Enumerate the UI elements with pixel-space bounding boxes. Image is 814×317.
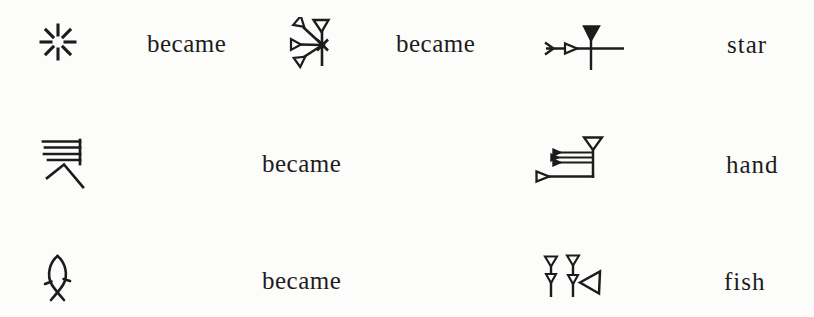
pictograph-to-cuneiform-figure: became became star bbox=[0, 0, 814, 317]
row1-connector-2: became bbox=[396, 31, 475, 56]
hand-pictograph-icon bbox=[40, 136, 86, 190]
fish-pictograph-icon bbox=[42, 252, 74, 306]
star-burst-pictograph-icon bbox=[38, 22, 80, 64]
row2-label: hand bbox=[726, 152, 779, 177]
cuneiform-fish-sign-icon bbox=[542, 252, 604, 302]
row1-connector-1: became bbox=[147, 31, 226, 56]
row1-label: star bbox=[727, 32, 767, 57]
cuneiform-hand-sign-icon bbox=[533, 134, 605, 184]
row3-connector-1: became bbox=[262, 268, 341, 293]
row3-label: fish bbox=[724, 269, 766, 294]
early-cuneiform-star-icon bbox=[288, 17, 342, 71]
cuneiform-star-sign-icon bbox=[541, 24, 629, 74]
row2-connector-1: became bbox=[262, 151, 341, 176]
